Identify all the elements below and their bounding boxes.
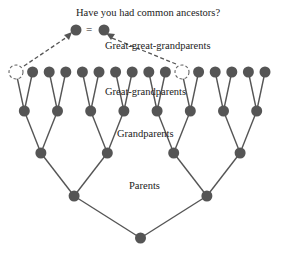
great-great-grandparent-node [226,67,237,78]
label-great-grandparents: Great-grandparents [105,86,186,97]
tree-edge [74,153,107,196]
great-great-grandparent-node [127,67,138,78]
label-great-great-grandparents: Great-great-grandparents [105,40,211,51]
tree-edge [248,72,256,111]
grandparent-node [168,148,179,159]
ancestry-diagram: = Have you had common ancestors? Great-g… [0,0,288,260]
tree-edge [141,196,207,238]
label-parents: Parents [129,180,160,191]
great-great-grandparent-node [243,67,254,78]
great-grandparent-node [152,106,163,117]
grandparent-node [235,148,246,159]
tree-edge [24,72,32,111]
tree-edge [49,72,57,111]
tree-edge [58,72,66,111]
grandparent-node [102,148,113,159]
great-grandparent-node [19,106,30,117]
tree-edge [224,111,241,153]
great-great-grandparent-node [210,67,221,78]
great-grandparent-node [185,106,196,117]
tree-edge [240,111,257,153]
tree-edge [190,72,198,111]
tree-edge [174,111,191,153]
common-ancestor-node-right [99,25,110,36]
great-great-grandparent-node [60,67,71,78]
great-great-grandparent-node [94,67,105,78]
great-great-grandparent-node [143,67,154,78]
parent-node [201,191,212,202]
great-great-grandparent-node [44,67,55,78]
great-great-grandparent-node [27,67,38,78]
great-great-grandparent-node [77,67,88,78]
diagram-title: Have you had common ancestors? [76,7,220,18]
label-grandparents: Grandparents [117,128,174,139]
great-great-grandparent-node [193,67,204,78]
duplicated-ancestor-node [9,65,23,79]
equals-sign: = [86,23,92,35]
parent-node [69,191,80,202]
tree-edge [74,196,140,238]
tree-edge [215,72,223,111]
tree-edge [257,72,265,111]
great-grandparent-node [118,106,129,117]
tree-edge [41,111,58,153]
great-grandparent-node [85,106,96,117]
tree-edge [91,72,99,111]
grandparent-node [35,148,46,159]
tree-edge [24,111,41,153]
tree-edge [91,111,108,153]
common-ancestor-node-left [71,25,82,36]
great-great-grandparent-node [160,67,171,78]
dashed-arrow-left [24,35,70,66]
great-grandparent-node [218,106,229,117]
great-grandparent-node [52,106,63,117]
tree-edge [174,153,207,196]
tree-edge [41,153,74,196]
great-great-grandparent-node [110,67,121,78]
duplicated-ancestor-node [175,65,189,79]
self-node [135,233,146,244]
tree-edge [207,153,240,196]
tree-edge [82,72,90,111]
tree-edge [224,72,232,111]
great-great-grandparent-node [260,67,271,78]
great-grandparent-node [251,106,262,117]
